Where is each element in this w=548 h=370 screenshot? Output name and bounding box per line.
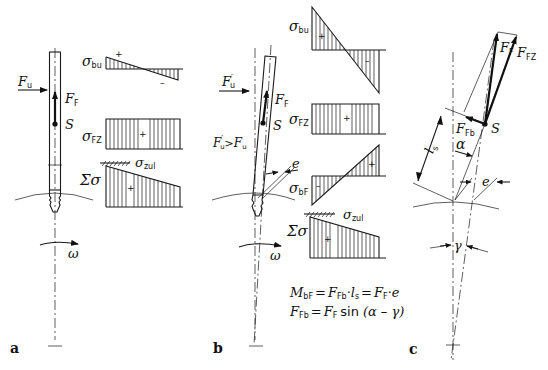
svg-text:σzul: σzul [343, 207, 363, 223]
e-arrow-left [266, 172, 278, 174]
svg-text:σFZ: σFZ [289, 111, 309, 128]
s-label-c: S [491, 121, 500, 136]
gamma-arrow-right [467, 246, 478, 249]
svg-text:–: – [365, 56, 370, 66]
svg-text:+: + [324, 234, 332, 244]
svg-text:+: + [115, 49, 123, 59]
stress-diagram-bf-b: + – σbF [289, 145, 386, 205]
force-condition-label: F′u>Fu [212, 135, 247, 151]
ff-label: FF [64, 91, 79, 108]
force-ffb-arrow-c [466, 117, 485, 124]
ls-extension-top [445, 108, 486, 124]
center-axis-c-tilted [451, 40, 494, 360]
stress-diagram-bu-b: + – σbu [289, 7, 386, 93]
svg-text:–: – [316, 181, 321, 191]
gamma-arrow-left [440, 245, 451, 246]
force-ff-arrow-c [485, 34, 497, 124]
equation-moment: MbF=FFb·ls=FF·e [289, 285, 400, 301]
equation-force: FFb=FFsin(α – γ) [289, 304, 404, 320]
svg-text:Σσ: Σσ [286, 222, 309, 240]
s-label-b: S [273, 118, 282, 133]
stress-diagram-fz-b: + σFZ [289, 104, 386, 134]
ls-extension-bottom [413, 183, 453, 201]
omega-arrow-b [239, 244, 281, 247]
panel-label-b: b [213, 340, 223, 356]
omega-arrow-a [40, 242, 78, 245]
ffz-label-c: FFZ [516, 45, 537, 62]
force-ff-arrow-b [263, 91, 267, 123]
svg-text:+: + [127, 183, 135, 193]
panel-a: Fu FF S ω a + – σbu [10, 48, 183, 356]
panel-c: FF FFZ FFb S ls α e γ c [409, 32, 537, 360]
svg-text:σbu: σbu [289, 18, 309, 35]
svg-text:–: – [160, 78, 165, 88]
omega-label-b: ω [270, 248, 281, 263]
svg-text:+: + [318, 31, 326, 41]
panel-b: F′u FF S F′u>Fu e ω b [212, 7, 404, 356]
disk-arc-a [15, 193, 93, 200]
stress-diagram-sum-a: σzul + Σσ [79, 155, 183, 207]
ff-label-b: FF [274, 92, 289, 109]
panel-label-c: c [409, 341, 418, 357]
gamma-label: γ [454, 238, 462, 253]
e-label-b: e [292, 156, 300, 171]
fu-prime-label: F′u [221, 73, 235, 90]
s-label: S [65, 117, 74, 132]
svg-text:σFZ: σFZ [82, 128, 102, 145]
alpha-label: α [456, 136, 466, 152]
stress-diagram-bu-a: + – σbu [82, 49, 183, 88]
omega-label-a: ω [68, 246, 79, 261]
svg-text:σbu: σbu [82, 53, 102, 70]
svg-text:σbF: σbF [289, 180, 309, 197]
centrifugal-blade-diagram: Fu FF S ω a + – σbu [0, 0, 548, 370]
svg-text:+: + [139, 129, 147, 139]
svg-text:+: + [343, 113, 351, 123]
stress-diagram-fz-a: + σFZ [82, 119, 183, 149]
centroid-s-a [52, 121, 57, 126]
e-label-c: e [482, 174, 490, 189]
svg-text:Σσ: Σσ [79, 171, 102, 189]
stress-diagram-sum-b: σzul + Σσ [286, 207, 386, 258]
centroid-s-b [260, 120, 265, 125]
fu-label: Fu [17, 74, 32, 90]
e-extension-1 [455, 178, 472, 200]
disk-arc-c [413, 202, 499, 209]
panel-label-a: a [10, 340, 19, 356]
ff-label-c: FF [499, 40, 514, 57]
svg-text:+: + [368, 159, 376, 169]
e-dimension-line-1 [258, 166, 291, 198]
svg-text:σzul: σzul [135, 155, 155, 171]
